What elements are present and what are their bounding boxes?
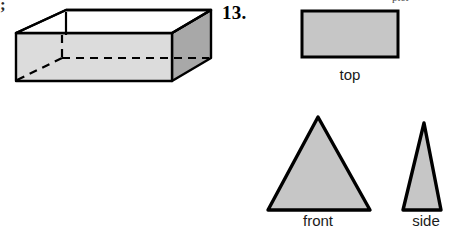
top-view-rectangle (302, 11, 398, 57)
problem-number-label: 13. (222, 2, 247, 24)
open-box-figure (4, 2, 216, 92)
front-view-triangle (268, 117, 370, 210)
top-view-label: top (302, 66, 398, 84)
front-view-label: front (258, 212, 378, 230)
figure-page: ; pict 13. (0, 0, 471, 240)
side-view-triangle (403, 123, 441, 210)
orthographic-views-figure (250, 4, 471, 240)
top-right-cutoff-text-fragment: pict (392, 0, 471, 3)
side-view-label: side (396, 212, 456, 230)
